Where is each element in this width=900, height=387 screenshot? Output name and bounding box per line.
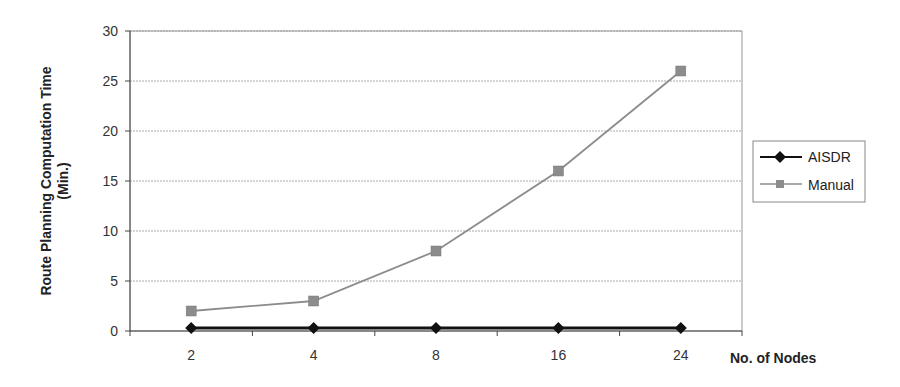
x-tick-label: 16: [551, 347, 567, 363]
legend-label-manual: Manual: [808, 177, 854, 193]
y-tick-label: 15: [102, 173, 118, 189]
data-point-aisdr: [675, 322, 687, 334]
data-point-manual: [186, 306, 196, 316]
x-ticks: 2481624: [130, 331, 742, 363]
legend-label-aisdr: AISDR: [808, 149, 851, 165]
x-tick-label: 24: [673, 347, 689, 363]
series-line-manual: [191, 71, 681, 311]
y-tick-label: 20: [102, 123, 118, 139]
legend-marker-manual: [776, 180, 784, 188]
data-point-manual: [553, 166, 563, 176]
y-tick-label: 10: [102, 223, 118, 239]
y-tick-label: 25: [102, 73, 118, 89]
series-group: [185, 66, 687, 334]
x-tick-label: 2: [187, 347, 195, 363]
data-point-manual: [431, 246, 441, 256]
x-axis-title: No. of Nodes: [730, 350, 817, 366]
y-tick-label: 30: [102, 23, 118, 39]
series-manual: [186, 66, 686, 316]
gridlines: [130, 31, 742, 281]
y-tick-label: 5: [110, 273, 118, 289]
data-point-manual: [676, 66, 686, 76]
data-point-aisdr: [308, 322, 320, 334]
y-axis-title-line2: (Min.): [55, 162, 71, 199]
data-point-manual: [309, 296, 319, 306]
data-point-aisdr: [185, 322, 197, 334]
data-point-aisdr: [430, 322, 442, 334]
y-ticks: 051015202530: [102, 23, 130, 339]
line-chart: 051015202530 2481624 Route Planning Comp…: [0, 0, 900, 387]
legend: AISDR Manual: [753, 141, 865, 202]
x-tick-label: 4: [310, 347, 318, 363]
y-axis-title-line1: Route Planning Computation Time: [38, 66, 54, 295]
x-tick-label: 8: [432, 347, 440, 363]
series-aisdr: [185, 322, 687, 334]
data-point-aisdr: [552, 322, 564, 334]
y-tick-label: 0: [110, 323, 118, 339]
